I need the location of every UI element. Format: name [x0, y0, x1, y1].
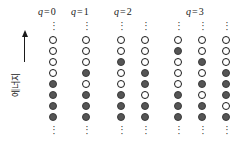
filled-circle	[49, 113, 57, 121]
group-label-value: 2	[127, 6, 132, 17]
ellipsis-dot: ·	[115, 133, 129, 136]
ellipsis-top: ···	[172, 22, 186, 32]
filled-circle	[141, 69, 149, 77]
ellipsis-dot: ·	[220, 29, 234, 32]
filled-circle	[198, 102, 206, 110]
ellipsis-dot: ·	[139, 133, 153, 136]
filled-circle	[141, 102, 149, 110]
open-circle	[82, 36, 90, 44]
ellipsis-dot: ·	[80, 29, 94, 32]
filled-circle	[141, 113, 149, 121]
group-label-q1: q=1	[71, 6, 89, 17]
ellipsis-bottom: ···	[139, 126, 153, 136]
ellipsis-top: ···	[139, 22, 153, 32]
filled-circle	[141, 80, 149, 88]
filled-circle	[222, 91, 230, 99]
state-ladder-q3-c2: ······	[196, 22, 210, 140]
ellipsis-bottom: ···	[47, 126, 61, 136]
state-ladder-q2-c2: ······	[139, 22, 153, 140]
filled-circle	[82, 91, 90, 99]
filled-circle	[117, 102, 125, 110]
up-arrow-icon	[24, 30, 26, 62]
filled-circle	[198, 58, 206, 66]
state-ladder-q0-c1: ······	[47, 22, 61, 140]
open-circle	[49, 36, 57, 44]
open-circle	[82, 47, 90, 55]
open-circle	[141, 36, 149, 44]
ellipsis-bottom: ···	[80, 126, 94, 136]
open-circle	[198, 91, 206, 99]
open-circle	[49, 69, 57, 77]
open-circle	[174, 69, 182, 77]
filled-circle	[49, 80, 57, 88]
ellipsis-dot: ·	[80, 133, 94, 136]
filled-circle	[49, 102, 57, 110]
state-ladder-q3-c3: ······	[220, 22, 234, 140]
open-circle	[82, 80, 90, 88]
filled-circle	[198, 113, 206, 121]
open-circle	[82, 58, 90, 66]
open-circle	[222, 102, 230, 110]
open-circle	[141, 47, 149, 55]
open-circle	[174, 80, 182, 88]
ellipsis-bottom: ···	[196, 126, 210, 136]
filled-circle	[117, 58, 125, 66]
group-label-equals: =	[76, 6, 84, 17]
ellipsis-bottom: ···	[220, 126, 234, 136]
open-circle	[222, 36, 230, 44]
filled-circle	[82, 69, 90, 77]
open-circle	[198, 47, 206, 55]
filled-circle	[82, 102, 90, 110]
open-circle	[49, 58, 57, 66]
group-label-value: 3	[199, 6, 204, 17]
filled-circle	[222, 80, 230, 88]
filled-circle	[174, 102, 182, 110]
filled-circle	[174, 47, 182, 55]
ellipsis-dot: ·	[139, 29, 153, 32]
open-circle	[174, 36, 182, 44]
filled-circle	[49, 91, 57, 99]
state-ladder-q3-c1: ······	[172, 22, 186, 140]
filled-circle	[117, 113, 125, 121]
ellipsis-dot: ·	[196, 133, 210, 136]
ellipsis-top: ···	[196, 22, 210, 32]
state-ladder-q2-c1: ······	[115, 22, 129, 140]
ellipsis-dot: ·	[115, 29, 129, 32]
energy-axis-label: 에너지	[9, 63, 22, 107]
filled-circle	[222, 69, 230, 77]
open-circle	[117, 36, 125, 44]
group-label-q2: q=2	[114, 6, 132, 17]
open-circle	[222, 47, 230, 55]
ellipsis-dot: ·	[47, 133, 61, 136]
filled-circle	[82, 113, 90, 121]
ellipsis-top: ···	[115, 22, 129, 32]
ellipsis-bottom: ···	[115, 126, 129, 136]
group-label-equals: =	[43, 6, 51, 17]
open-circle	[174, 58, 182, 66]
filled-circle	[174, 91, 182, 99]
ellipsis-top: ···	[220, 22, 234, 32]
ellipsis-top: ···	[47, 22, 61, 32]
ellipsis-dot: ·	[172, 29, 186, 32]
state-ladder-q1-c1: ······	[80, 22, 94, 140]
ellipsis-bottom: ···	[172, 126, 186, 136]
group-label-value: 0	[51, 6, 56, 17]
group-label-equals: =	[119, 6, 127, 17]
ellipsis-top: ···	[80, 22, 94, 32]
filled-circle	[174, 113, 182, 121]
ellipsis-dot: ·	[172, 133, 186, 136]
open-circle	[117, 47, 125, 55]
energy-axis: 에너지	[4, 30, 38, 135]
filled-circle	[222, 113, 230, 121]
group-label-q3: q=3	[186, 6, 204, 17]
open-circle	[222, 58, 230, 66]
open-circle	[49, 47, 57, 55]
energy-level-figure: 에너지 q=0······q=1······q=2············q=3…	[0, 0, 248, 144]
ellipsis-dot: ·	[47, 29, 61, 32]
group-label-value: 1	[84, 6, 89, 17]
filled-circle	[117, 91, 125, 99]
open-circle	[198, 69, 206, 77]
group-label-q0: q=0	[38, 6, 56, 17]
open-circle	[141, 91, 149, 99]
open-circle	[117, 69, 125, 77]
